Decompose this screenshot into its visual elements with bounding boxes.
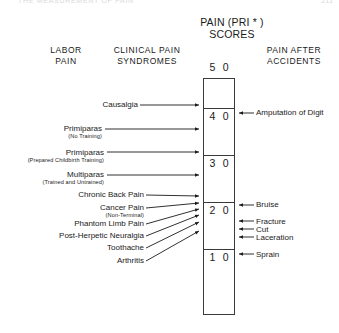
- pain-score-figure: THE MEASUREMENT OF PAIN 211 PAIN (PRI * …: [0, 0, 339, 333]
- leader-cancer-pain: [146, 203, 199, 208]
- leader-toothache: [146, 222, 199, 248]
- scale-tick-line-40: [203, 108, 235, 109]
- figure-title-line1: PAIN (PRI * ): [200, 16, 264, 28]
- column-header-pain-after-accidents: PAIN AFTER ACCIDENTS: [252, 45, 336, 66]
- label-sprain-text: Sprain: [256, 250, 279, 259]
- column-header-accidents-line1: PAIN AFTER: [252, 45, 336, 56]
- label-arthritis: Arthritis: [86, 256, 144, 265]
- label-laceration: Laceration: [256, 233, 293, 242]
- label-amputation-of-digit: Amputation of Digit: [256, 108, 324, 117]
- leader-arthritis: [146, 231, 199, 261]
- leader-post-herpetic-neuralgia: [146, 215, 199, 236]
- column-header-clinical-line1: CLINICAL PAIN: [104, 45, 190, 56]
- label-primiparas-no-training-sub: (No Training): [26, 133, 102, 140]
- label-multiparas: Multiparas (Trained and Untrained): [14, 170, 104, 186]
- scale-tick-label-40: 4 0: [202, 111, 236, 122]
- scale-tick-label-20: 2 0: [202, 205, 236, 216]
- label-bruise: Bruise: [256, 200, 279, 209]
- scale-tick-label-50: 5 0: [202, 62, 236, 73]
- label-post-herpetic-neuralgia-text: Post-Herpetic Neuralgia: [59, 231, 144, 240]
- label-phantom-limb-pain: Phantom Limb Pain: [42, 219, 144, 228]
- leader-chronic-back-pain: [146, 195, 199, 196]
- label-cancer-pain-text: Cancer Pain: [100, 203, 144, 212]
- label-amputation-of-digit-text: Amputation of Digit: [256, 108, 324, 117]
- label-primiparas-prepared-text: Primiparas: [66, 148, 104, 157]
- scale-tick-label-30: 3 0: [202, 158, 236, 169]
- figure-title: PAIN (PRI * ) SCORES: [176, 16, 288, 40]
- label-primiparas-no-training: Primiparas (No Training): [26, 124, 102, 140]
- label-multiparas-sub: (Trained and Untrained): [14, 179, 104, 186]
- label-laceration-text: Laceration: [256, 233, 293, 242]
- label-multiparas-text: Multiparas: [67, 170, 104, 179]
- column-header-accidents-line2: ACCIDENTS: [252, 56, 336, 67]
- label-primiparas-no-training-text: Primiparas: [64, 124, 102, 133]
- scale-tick-line-20: [203, 202, 235, 203]
- label-sprain: Sprain: [256, 250, 279, 259]
- scale-tick-line-10: [203, 249, 235, 250]
- column-header-labor-pain: LABOR PAIN: [38, 45, 94, 66]
- scale-tick-line-30: [203, 155, 235, 156]
- label-toothache-text: Toothache: [107, 243, 144, 252]
- label-phantom-limb-pain-text: Phantom Limb Pain: [74, 219, 144, 228]
- label-primiparas-prepared-childbirth: Primiparas (Prepared Childbirth Training…: [4, 148, 104, 164]
- label-cancer-pain-sub: (Non-Terminal): [66, 212, 144, 219]
- label-toothache: Toothache: [76, 243, 144, 252]
- label-causalgia: Causalgia: [76, 100, 138, 109]
- running-head-right: 211: [321, 0, 333, 4]
- label-chronic-back-pain-text: Chronic Back Pain: [78, 190, 144, 199]
- column-header-labor-pain-line1: LABOR: [38, 45, 94, 56]
- column-header-clinical-pain-syndromes: CLINICAL PAIN SYNDROMES: [104, 45, 190, 66]
- label-arthritis-text: Arthritis: [117, 256, 144, 265]
- label-chronic-back-pain: Chronic Back Pain: [52, 190, 144, 199]
- running-head-left: THE MEASUREMENT OF PAIN: [18, 0, 134, 4]
- label-causalgia-text: Causalgia: [102, 100, 138, 109]
- column-header-labor-pain-line2: PAIN: [38, 56, 94, 67]
- column-header-clinical-line2: SYNDROMES: [104, 56, 190, 67]
- label-post-herpetic-neuralgia: Post-Herpetic Neuralgia: [20, 231, 144, 240]
- label-primiparas-prepared-sub: (Prepared Childbirth Training): [4, 157, 104, 164]
- scale-tick-label-10: 1 0: [202, 252, 236, 263]
- leader-phantom-limb-pain: [146, 209, 199, 224]
- figure-title-line2: SCORES: [176, 28, 288, 40]
- label-bruise-text: Bruise: [256, 200, 279, 209]
- label-cancer-pain: Cancer Pain (Non-Terminal): [66, 203, 144, 219]
